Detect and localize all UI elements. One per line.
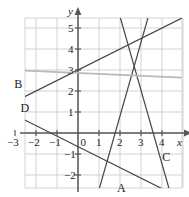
y-tick-label-neg2: −2: [64, 170, 76, 181]
y-tick-label-2: 2: [68, 86, 74, 97]
x-axis-label: x: [177, 137, 182, 148]
x-tick-label-4: 4: [159, 137, 165, 148]
line-label-b: B: [14, 78, 22, 90]
line-label-c: C: [162, 151, 170, 163]
x-tick-label-3: 3: [138, 137, 144, 148]
line-label-a: A: [117, 182, 126, 194]
data-lines: [0, 0, 189, 197]
data-line-c: [115, 0, 173, 197]
x-tick-label-neg3: −3: [7, 137, 19, 148]
x-tick-label-2: 2: [117, 137, 123, 148]
coordinate-plane-svg: [0, 0, 189, 197]
graph-figure: −3−2−11234054321−1−2yxABCD: [0, 0, 189, 197]
axis-arrow-heads: [75, 7, 189, 136]
origin-label: 0: [81, 137, 87, 148]
x-tick-label-neg2: −2: [28, 137, 40, 148]
y-tick-label-5: 5: [68, 23, 74, 34]
line-label-d: D: [20, 102, 29, 114]
y-tick-label-3: 3: [68, 65, 74, 76]
y-tick-label-4: 4: [68, 44, 74, 55]
y-axis-label: y: [68, 6, 73, 17]
x-tick-label-1: 1: [96, 137, 102, 148]
grid-lines: [25, 18, 183, 188]
x-tick-label-neg1: −1: [49, 137, 61, 148]
y-tick-label-neg1: −1: [64, 149, 76, 160]
y-tick-label-1: 1: [68, 107, 74, 118]
tick-marks: [15, 28, 162, 175]
data-line-a: [96, 0, 154, 197]
